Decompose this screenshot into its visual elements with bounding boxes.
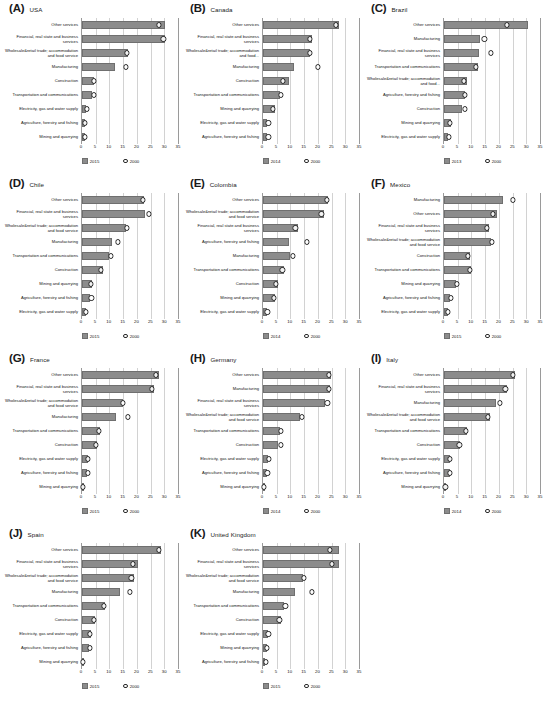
x-axis-tick: 25 bbox=[148, 494, 153, 499]
bar-row bbox=[444, 480, 540, 494]
category-label-text: Construction bbox=[236, 442, 259, 447]
x-axis-tick: 20 bbox=[134, 669, 139, 674]
category-label: Agriculture, forestry and fishing bbox=[184, 655, 262, 669]
legend-item-bars: 2015 bbox=[82, 683, 100, 689]
category-label: Manufacturing bbox=[184, 382, 262, 396]
category-label-text: Transportation and communications bbox=[193, 603, 259, 608]
legend-item-markers: 2000 bbox=[485, 508, 501, 514]
legend-bar-year: 2015 bbox=[90, 159, 100, 164]
marker-2000 bbox=[91, 92, 96, 97]
x-axis-tick: 30 bbox=[343, 144, 348, 149]
x-axis-tick: 10 bbox=[287, 494, 292, 499]
category-label: Financial, real state and business servi… bbox=[3, 207, 81, 221]
gridline bbox=[540, 193, 541, 319]
x-axis: 05101520253035 bbox=[443, 319, 540, 330]
category-label-text: Construction bbox=[236, 617, 259, 622]
category-label-text: Other services bbox=[51, 372, 78, 377]
x-axis-tick: 15 bbox=[301, 669, 306, 674]
bar-row bbox=[82, 585, 178, 599]
x-axis-tick: 15 bbox=[301, 494, 306, 499]
x-axis-tick: 35 bbox=[357, 144, 362, 149]
bar-row bbox=[444, 396, 540, 410]
chart-panel-mexico: (F)MexicoManufacturingOther servicesFina… bbox=[362, 175, 543, 350]
bar-recent-year bbox=[444, 35, 480, 42]
marker-2000 bbox=[455, 281, 460, 286]
marker-2000 bbox=[121, 400, 126, 405]
x-axis-tick: 35 bbox=[538, 494, 543, 499]
bar-row bbox=[444, 249, 540, 263]
marker-2000 bbox=[80, 484, 85, 489]
marker-2000 bbox=[272, 295, 277, 300]
category-axis: Other servicesWholesale&retail trade; ac… bbox=[184, 193, 262, 319]
bar-rows bbox=[263, 18, 359, 144]
chart-panel-canada: (B)CanadaOther servicesFinancial, real s… bbox=[181, 0, 362, 175]
category-label-text: Transportation and communications bbox=[374, 428, 440, 433]
category-label: Transportation and communications bbox=[3, 599, 81, 613]
category-label: Wholesale&retail trade; accommodation an… bbox=[184, 571, 262, 585]
marker-2000 bbox=[115, 239, 120, 244]
bar-row bbox=[263, 424, 359, 438]
bar-row bbox=[82, 557, 178, 571]
bar-row bbox=[444, 221, 540, 235]
category-label-text: Financial, real state and business servi… bbox=[3, 209, 78, 220]
category-label: Wholesale&retail trade; accommodation an… bbox=[3, 46, 81, 60]
bar-recent-year bbox=[82, 35, 165, 42]
bar-recent-year bbox=[444, 238, 491, 245]
category-label: Financial, real state and business servi… bbox=[365, 382, 443, 396]
category-label: Construction bbox=[365, 102, 443, 116]
category-label: Other services bbox=[184, 543, 262, 557]
x-axis: 05101520253035 bbox=[262, 669, 359, 680]
category-label-text: Mining and quarrying bbox=[220, 106, 259, 111]
x-axis-tick: 30 bbox=[343, 669, 348, 674]
marker-2000 bbox=[457, 442, 462, 447]
bar-row bbox=[263, 655, 359, 669]
x-axis-tick: 5 bbox=[456, 144, 458, 149]
category-label-text: Financial, real state and business servi… bbox=[3, 34, 78, 45]
x-axis-tick: 5 bbox=[94, 669, 96, 674]
legend-bar-year: 2014 bbox=[271, 159, 281, 164]
legend-marker-year: 2000 bbox=[130, 509, 140, 514]
x-axis-tick: 25 bbox=[329, 319, 334, 324]
category-label-text: Manufacturing bbox=[414, 400, 440, 405]
bar-recent-year bbox=[263, 252, 290, 259]
legend-item-bars: 2015 bbox=[444, 333, 462, 339]
x-axis-tick: 0 bbox=[80, 319, 82, 324]
category-label-text: Manufacturing bbox=[52, 239, 78, 244]
category-label: Transportation and communications bbox=[184, 424, 262, 438]
panel-header: (I)Italy bbox=[365, 352, 540, 366]
bar-recent-year bbox=[263, 371, 331, 378]
category-label: Wholesale&retail trade; accommodation an… bbox=[3, 396, 81, 410]
category-label: Mining and quarrying bbox=[3, 480, 81, 494]
x-axis-tick: 30 bbox=[162, 669, 167, 674]
category-label-text: Mining and quarrying bbox=[39, 281, 78, 286]
bar-row bbox=[263, 480, 359, 494]
category-label-text: Electricity, gas and water supply bbox=[19, 456, 78, 461]
bar-recent-year bbox=[263, 602, 284, 609]
bar-row bbox=[263, 46, 359, 60]
legend-bar-swatch-icon bbox=[82, 333, 88, 339]
bar-recent-year bbox=[444, 399, 496, 406]
chart-panel-spain: (J)SpainOther servicesFinancial, real st… bbox=[0, 525, 181, 700]
legend-bar-year: 2014 bbox=[452, 509, 462, 514]
category-label-text: Financial, real state and business servi… bbox=[3, 384, 78, 395]
panel-header: (K)United Kingdom bbox=[184, 527, 359, 541]
bar-row bbox=[82, 102, 178, 116]
bar-row bbox=[82, 627, 178, 641]
category-label: Financial, real state and business servi… bbox=[365, 221, 443, 235]
bar-row bbox=[82, 207, 178, 221]
marker-2000 bbox=[447, 120, 452, 125]
category-label: Construction bbox=[184, 438, 262, 452]
category-label-text: Mining and quarrying bbox=[39, 134, 78, 139]
bar-recent-year bbox=[82, 224, 126, 231]
category-label-text: Construction bbox=[417, 106, 440, 111]
marker-2000 bbox=[278, 428, 283, 433]
bar-row bbox=[82, 74, 178, 88]
legend-bar-swatch-icon bbox=[82, 683, 88, 689]
category-label: Manufacturing bbox=[184, 249, 262, 263]
legend-item-markers: 2000 bbox=[304, 683, 320, 689]
category-label-text: Electricity, gas and water supply bbox=[200, 456, 259, 461]
bar-recent-year bbox=[444, 21, 528, 28]
gridline bbox=[359, 543, 360, 669]
legend-circle-marker-icon bbox=[304, 509, 308, 513]
bar-row bbox=[444, 116, 540, 130]
